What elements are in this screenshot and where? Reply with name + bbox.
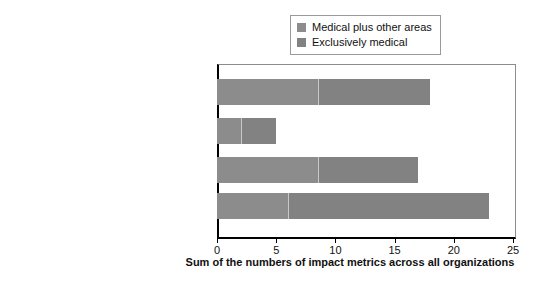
x-tick-label: 25	[507, 244, 519, 256]
x-tick-mark	[454, 237, 455, 243]
x-tick-mark	[395, 237, 396, 243]
x-tick-label: 10	[329, 244, 341, 256]
x-axis-title: Sum of the numbers of impact metrics acr…	[180, 256, 520, 269]
bar-row	[217, 79, 430, 105]
x-tick-mark	[513, 237, 514, 243]
chart-legend: Medical plus other areas Exclusively med…	[290, 15, 441, 55]
bar-segment	[241, 118, 277, 144]
bar-row	[217, 118, 276, 144]
legend-item-medical-plus-other-areas: Medical plus other areas	[297, 20, 432, 35]
x-tick-label: 20	[448, 244, 460, 256]
x-tick-label: 5	[273, 244, 279, 256]
bar-segment	[217, 157, 318, 183]
bar-chart: Medical plus other areas Exclusively med…	[0, 0, 544, 284]
x-tick-mark	[217, 237, 218, 243]
bar-row	[217, 193, 489, 219]
legend-label-medical-plus-other-areas: Medical plus other areas	[312, 22, 432, 33]
bar-row	[217, 157, 418, 183]
x-tick-label: 0	[214, 244, 220, 256]
legend-swatch-medical-plus-other-areas	[297, 23, 306, 32]
legend-label-exclusively-medical: Exclusively medical	[312, 37, 407, 48]
bar-segment	[288, 193, 489, 219]
bar-segment	[318, 79, 430, 105]
x-tick-label: 15	[388, 244, 400, 256]
bar-segment	[318, 157, 419, 183]
legend-item-exclusively-medical: Exclusively medical	[297, 35, 432, 50]
bar-segment	[217, 118, 241, 144]
legend-swatch-exclusively-medical	[297, 38, 306, 47]
bar-segment	[217, 79, 318, 105]
x-tick-mark	[335, 237, 336, 243]
bar-segment	[217, 193, 288, 219]
x-tick-mark	[276, 237, 277, 243]
plot-area	[217, 64, 513, 236]
